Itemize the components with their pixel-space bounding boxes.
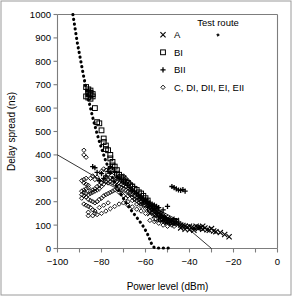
- data-point-diamond: [82, 148, 86, 152]
- data-point-diamond: [97, 205, 101, 209]
- scatter-plot: 01002003004005006007008009001000−100−80−…: [0, 0, 292, 296]
- data-point-diamond: [139, 209, 143, 213]
- data-point-diamond: [88, 176, 92, 180]
- legend-title-dot: [217, 34, 220, 37]
- y-tick-label: 100: [35, 220, 51, 231]
- data-point-diamond: [82, 153, 86, 157]
- y-tick-label: 200: [35, 196, 51, 207]
- data-point-diamond: [148, 218, 152, 222]
- data-point-diamond: [102, 203, 106, 207]
- y-tick-label: 1000: [30, 9, 51, 20]
- legend-marker-plus: [160, 67, 165, 72]
- x-tick-label: −40: [181, 256, 197, 267]
- legend-marker-square: [161, 50, 166, 55]
- legend-title: Test route: [197, 17, 239, 28]
- data-point-plus: [165, 204, 170, 209]
- x-tick-label: −100: [47, 256, 68, 267]
- y-tick-label: 700: [35, 79, 51, 90]
- y-tick-label: 800: [35, 56, 51, 67]
- legend-label: C, DI, DII, EI, EII: [174, 82, 244, 93]
- chart-figure: 01002003004005006007008009001000−100−80−…: [0, 0, 292, 296]
- x-axis-title: Power level (dBm): [127, 281, 209, 292]
- data-point-diamond: [99, 211, 103, 215]
- legend-marker-diamond: [161, 85, 165, 89]
- legend-label: A: [174, 29, 181, 40]
- data-point-square: [93, 106, 98, 111]
- data-point-diamond: [143, 211, 147, 215]
- x-tick-label: −80: [93, 256, 109, 267]
- legend-label: BI: [174, 47, 183, 58]
- y-tick-label: 900: [35, 32, 51, 43]
- y-axis-title: Delay spread (ns): [6, 92, 17, 171]
- x-tick-label: 0: [275, 256, 280, 267]
- data-point-diamond: [135, 207, 139, 211]
- data-point-square: [108, 153, 113, 158]
- data-point-square: [99, 128, 104, 133]
- data-point-plus: [95, 170, 100, 175]
- y-tick-label: 300: [35, 173, 51, 184]
- y-tick-label: 400: [35, 149, 51, 160]
- y-tick-label: 0: [46, 243, 51, 254]
- data-point-diamond: [106, 201, 110, 205]
- data-point-diamond: [84, 155, 88, 159]
- data-point-diamond: [130, 205, 134, 209]
- data-point-diamond: [113, 204, 117, 208]
- y-tick-label: 600: [35, 103, 51, 114]
- data-point-square: [101, 136, 106, 141]
- axis-lines: [58, 15, 278, 249]
- x-tick-label: −60: [137, 256, 153, 267]
- data-point-diamond: [117, 202, 121, 206]
- y-tick-label: 500: [35, 126, 51, 137]
- data-point-diamond: [91, 214, 95, 218]
- data-point-diamond: [104, 209, 108, 213]
- legend-label: BII: [174, 64, 186, 75]
- data-point-diamond: [108, 207, 112, 211]
- x-tick-label: −20: [225, 256, 241, 267]
- legend-marker-x: [160, 32, 165, 37]
